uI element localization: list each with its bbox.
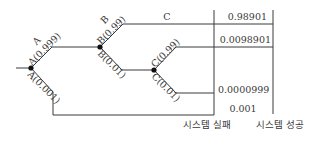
top-branch-c-label: C xyxy=(163,11,170,22)
system-failure-label: 시스템 실패 xyxy=(183,119,231,130)
outcome-value-3: 0.0000999 xyxy=(218,84,269,95)
outcome-value-2: 0.0098901 xyxy=(220,34,271,45)
event-tree-diagram: A A(0.999) A(0.001) B B(0.99) B(0.01) C … xyxy=(0,0,315,145)
node-c-failure-label: C(0.01) xyxy=(150,71,183,104)
outcome-value-4: 0.001 xyxy=(229,103,256,114)
system-success-label: 시스템 성공 xyxy=(256,119,304,130)
node-a-success-label: A(0.999) xyxy=(25,30,63,68)
node-b-failure-label: B(0.01) xyxy=(96,48,129,81)
node-a-failure-label: A(0.001) xyxy=(25,68,63,106)
outcome-value-1: 0.98901 xyxy=(228,11,267,22)
node-c-success-label: C(0.99) xyxy=(149,36,182,69)
